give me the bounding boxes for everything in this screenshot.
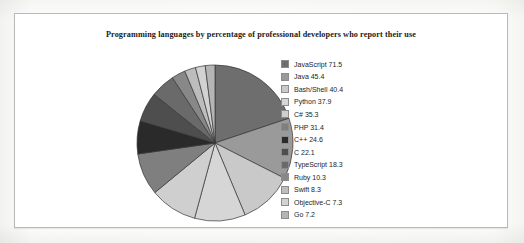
chart-title: Programming languages by percentage of p… bbox=[15, 30, 507, 39]
legend-item[interactable]: Go 7.2 bbox=[281, 209, 421, 222]
legend-item[interactable]: Java 45.4 bbox=[281, 71, 421, 84]
legend-item[interactable]: TypeScript 18.3 bbox=[281, 158, 421, 171]
legend-label: Bash/Shell 40.4 bbox=[294, 86, 343, 93]
legend-label: TypeScript 18.3 bbox=[294, 161, 343, 168]
legend-swatch bbox=[281, 123, 289, 131]
legend-swatch bbox=[281, 173, 289, 181]
legend-swatch bbox=[281, 73, 289, 81]
legend-item[interactable]: Ruby 10.3 bbox=[281, 171, 421, 184]
chart-legend: JavaScript 71.5Java 45.4Bash/Shell 40.4P… bbox=[281, 58, 421, 221]
pie-chart bbox=[123, 51, 307, 235]
legend-swatch bbox=[281, 198, 289, 206]
pie-slice-group bbox=[137, 65, 293, 221]
legend-item[interactable]: Objective-C 7.3 bbox=[281, 196, 421, 209]
legend-label: JavaScript 71.5 bbox=[294, 61, 342, 68]
legend-label: C++ 24.6 bbox=[294, 136, 323, 143]
legend-item[interactable]: PHP 31.4 bbox=[281, 121, 421, 134]
pie-chart-svg bbox=[123, 51, 307, 235]
legend-label: C 22.1 bbox=[294, 149, 315, 156]
legend-item[interactable]: Swift 8.3 bbox=[281, 183, 421, 196]
legend-swatch bbox=[281, 110, 289, 118]
legend-item[interactable]: Python 37.9 bbox=[281, 96, 421, 109]
legend-swatch bbox=[281, 186, 289, 194]
legend-swatch bbox=[281, 98, 289, 106]
legend-label: PHP 31.4 bbox=[294, 124, 324, 131]
chart-frame: Programming languages by percentage of p… bbox=[14, 13, 508, 228]
scanned-page: Programming languages by percentage of p… bbox=[0, 0, 524, 243]
legend-item[interactable]: C 22.1 bbox=[281, 146, 421, 159]
legend-label: Java 45.4 bbox=[294, 73, 324, 80]
legend-label: Objective-C 7.3 bbox=[294, 199, 342, 206]
legend-label: Swift 8.3 bbox=[294, 186, 321, 193]
legend-label: C# 35.3 bbox=[294, 111, 319, 118]
legend-item[interactable]: JavaScript 71.5 bbox=[281, 58, 421, 71]
legend-item[interactable]: C# 35.3 bbox=[281, 108, 421, 121]
legend-swatch bbox=[281, 85, 289, 93]
legend-swatch bbox=[281, 161, 289, 169]
legend-swatch bbox=[281, 211, 289, 219]
legend-swatch bbox=[281, 60, 289, 68]
legend-label: Python 37.9 bbox=[294, 98, 331, 105]
legend-swatch bbox=[281, 136, 289, 144]
legend-item[interactable]: C++ 24.6 bbox=[281, 133, 421, 146]
legend-label: Ruby 10.3 bbox=[294, 174, 326, 181]
legend-label: Go 7.2 bbox=[294, 211, 315, 218]
legend-swatch bbox=[281, 148, 289, 156]
legend-item[interactable]: Bash/Shell 40.4 bbox=[281, 83, 421, 96]
